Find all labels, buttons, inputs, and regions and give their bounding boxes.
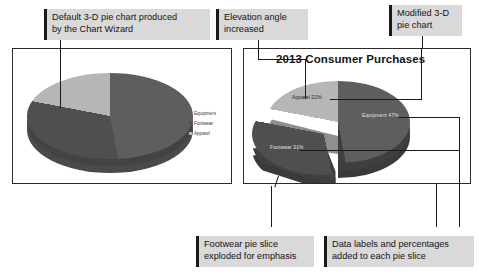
leader-line-elevation-across	[258, 59, 306, 60]
leader-line-elevation-tip	[305, 59, 306, 99]
data-label-equipment: Equipment 47%	[362, 112, 399, 118]
leader-line-data-labels-arm	[459, 117, 460, 227]
leader-line-equipment-label	[398, 117, 460, 118]
data-label-apparel-pct: 22%	[311, 94, 321, 100]
leader-line-elevation-down	[258, 40, 259, 60]
callout-elevation-line-2: increased	[224, 24, 302, 36]
legend-swatch-equipment	[189, 112, 192, 115]
leader-line-modified-chart	[422, 36, 423, 48]
legend-item-footwear: Footwear	[189, 120, 216, 128]
leader-line-default-chart	[60, 40, 61, 108]
leader-line-apparel-label-riser	[421, 48, 422, 100]
callout-modified-chart: Modified 3-D pie chart	[389, 5, 462, 36]
leader-line-exploded-slice	[271, 186, 272, 227]
callout-modified-chart-line-1: Modified 3-D	[397, 8, 456, 20]
callout-data-labels-line-2: added to each pie slice	[332, 251, 468, 263]
legend-label-equipment: Equipment	[194, 110, 216, 118]
callout-default-chart-line-1: Default 3-D pie chart produced	[52, 12, 204, 24]
modified-chart-panel[interactable]: 2013 Consumer Purchases Apparel 22% Equi…	[243, 48, 471, 184]
default-chart-legend: Equipment Footwear Apparel	[189, 110, 216, 140]
data-label-equipment-name: Equipment	[362, 112, 387, 118]
callout-modified-chart-line-2: pie chart	[397, 20, 456, 32]
leader-line-footwear-label	[300, 150, 460, 151]
data-label-footwear: Footwear 31%	[270, 144, 303, 150]
legend-item-apparel: Apparel	[189, 130, 216, 138]
default-chart-panel[interactable]: Equipment Footwear Apparel	[12, 48, 232, 184]
callout-exploded-slice: Footwear pie slice exploded for emphasis	[196, 236, 314, 267]
pie-top-face	[27, 73, 193, 159]
legend-swatch-footwear	[189, 122, 192, 125]
leader-line-apparel-label	[330, 99, 422, 100]
legend-label-footwear: Footwear	[194, 120, 213, 128]
data-label-apparel-name: Apparel	[292, 94, 310, 100]
legend-label-apparel: Apparel	[194, 130, 210, 138]
callout-default-chart: Default 3-D pie chart produced by the Ch…	[44, 9, 210, 40]
callout-exploded-slice-line-1: Footwear pie slice	[204, 239, 308, 251]
pie-slice-footwear-face	[252, 93, 396, 175]
callout-data-labels: Data labels and percentages added to eac…	[324, 236, 474, 267]
legend-swatch-apparel	[189, 132, 192, 135]
leader-line-data-labels-arm2	[436, 184, 437, 227]
pie-slice-footwear[interactable]	[252, 93, 396, 175]
callout-exploded-slice-line-2: exploded for emphasis	[204, 251, 308, 263]
callout-elevation: Elevation angle increased	[216, 9, 308, 40]
callout-default-chart-line-2: by the Chart Wizard	[52, 24, 204, 36]
legend-item-equipment: Equipment	[189, 110, 216, 118]
default-pie-chart[interactable]	[27, 73, 193, 159]
data-label-apparel: Apparel 22%	[292, 94, 322, 100]
data-label-footwear-name: Footwear	[270, 144, 292, 150]
callout-data-labels-line-1: Data labels and percentages	[332, 239, 468, 251]
callout-elevation-line-1: Elevation angle	[224, 12, 302, 24]
